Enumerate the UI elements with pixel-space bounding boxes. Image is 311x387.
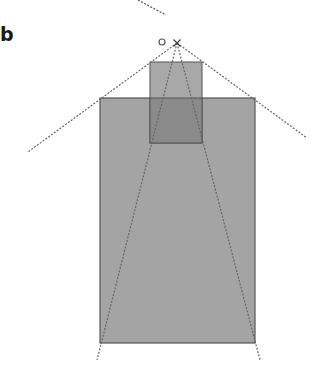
apex-cross-icon [174, 40, 181, 47]
overlap-region [150, 98, 202, 143]
perspective-diagram [0, 0, 311, 387]
origin-circle-icon [159, 39, 165, 45]
top-dashed-line [138, 0, 166, 15]
